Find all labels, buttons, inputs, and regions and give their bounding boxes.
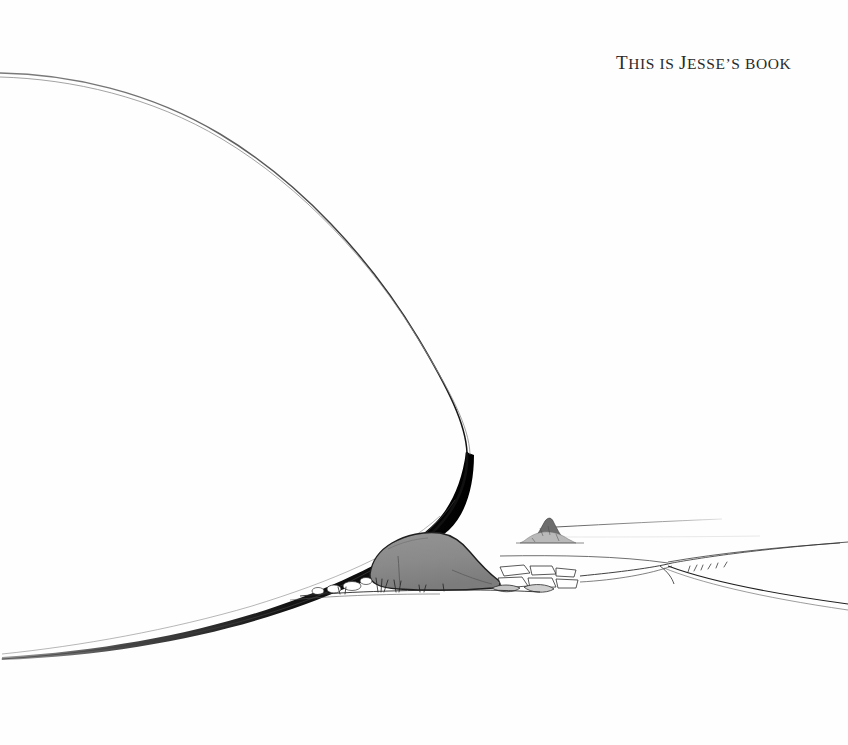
inscription-his-is: HIS IS	[628, 55, 679, 72]
pebble-4	[360, 578, 372, 585]
landscape-line-drawing	[0, 0, 848, 745]
drawing-page: THIS IS JESSE’S BOOK	[0, 0, 848, 745]
rock-f	[556, 579, 578, 588]
rock-c	[556, 568, 576, 577]
rock-b	[530, 566, 556, 575]
page-inscription: THIS IS JESSE’S BOOK	[616, 53, 791, 72]
pebble-3	[312, 588, 324, 595]
paper-background	[0, 0, 848, 745]
inscription-esses-book: ESSE’S BOOK	[687, 55, 791, 72]
inscription-t-cap: T	[616, 52, 628, 73]
inscription-j-cap: J	[679, 52, 687, 73]
